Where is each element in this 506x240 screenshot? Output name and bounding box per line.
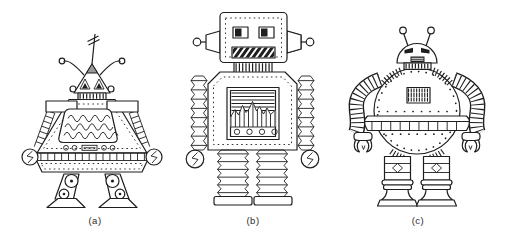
claw-hand-icon bbox=[354, 133, 372, 153]
subfigure-label-c: (c) bbox=[388, 215, 448, 226]
robot-b-foot-right bbox=[254, 197, 292, 206]
robot-b-hand-left bbox=[186, 150, 204, 168]
robot-a-hand-left bbox=[22, 149, 38, 165]
robot-a-illustration bbox=[22, 34, 162, 208]
robot-a-head bbox=[74, 64, 110, 93]
mouth-grille-icon bbox=[228, 45, 280, 59]
robots-drawing bbox=[0, 0, 506, 240]
waist-band bbox=[363, 116, 471, 131]
shoulder-box-right bbox=[107, 101, 138, 112]
robot-b-arm-left bbox=[191, 76, 207, 150]
robot-a-neck bbox=[78, 93, 106, 100]
robot-a-leg-left bbox=[47, 174, 85, 208]
robot-b-head bbox=[220, 13, 287, 63]
robot-b-arm-right bbox=[298, 76, 314, 150]
wave-display-panel bbox=[59, 109, 118, 143]
robot-b-leg-left bbox=[218, 150, 249, 197]
ear-antenna-right-icon bbox=[287, 31, 314, 53]
robot-b-illustration bbox=[186, 13, 319, 206]
robot-b-neck bbox=[234, 63, 272, 73]
antenna-icon bbox=[400, 27, 408, 46]
figure-canvas: (a) (b) (c) bbox=[0, 0, 506, 240]
robot-a-hand-right bbox=[146, 149, 162, 165]
robot-b-hand-right bbox=[301, 150, 319, 168]
subfigure-label-b: (b) bbox=[223, 215, 283, 226]
robot-c-leg bbox=[378, 157, 418, 207]
robot-b-body bbox=[208, 72, 297, 150]
robot-a-base-band bbox=[33, 153, 151, 172]
eye-left-icon bbox=[233, 27, 248, 38]
antenna-icon bbox=[88, 34, 100, 64]
robot-b-foot-left bbox=[214, 197, 252, 206]
robot-c-illustration bbox=[354, 27, 480, 206]
robot-a-body bbox=[37, 100, 147, 154]
ear-antenna-left-icon bbox=[193, 31, 220, 53]
eye-right-icon bbox=[259, 27, 274, 38]
subfigure-label-a: (a) bbox=[65, 215, 125, 226]
chest-grille-icon bbox=[407, 88, 430, 104]
robot-c-head bbox=[397, 44, 437, 64]
robot-a-leg-right bbox=[99, 174, 137, 208]
robot-c-neck bbox=[404, 63, 431, 70]
chart-display-panel bbox=[227, 88, 279, 140]
robot-b-leg-right bbox=[257, 150, 288, 197]
mouth-grille-icon bbox=[411, 57, 425, 63]
